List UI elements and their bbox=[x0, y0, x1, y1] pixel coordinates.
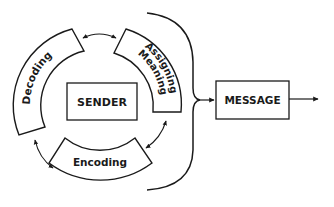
sender-box: SENDER bbox=[67, 83, 137, 120]
encoding-segment: Encoding bbox=[49, 138, 152, 180]
encoding-label: Encoding bbox=[73, 156, 127, 168]
arrow-assigning-encoding bbox=[146, 121, 166, 148]
sender-message-diagram: Decoding Assigning Meaning Encoding SEND… bbox=[0, 0, 334, 207]
sender-label: SENDER bbox=[77, 96, 127, 109]
arrow-decoding-assigning bbox=[83, 34, 116, 38]
message-label: MESSAGE bbox=[224, 94, 280, 106]
message-box: MESSAGE bbox=[216, 81, 289, 119]
